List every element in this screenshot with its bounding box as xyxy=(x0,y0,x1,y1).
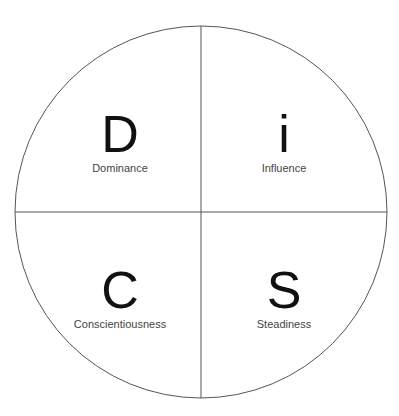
quadrant-dominance: D Dominance xyxy=(50,108,190,174)
quadrant-letter: i xyxy=(214,108,354,160)
quadrant-letter: C xyxy=(50,264,190,316)
quadrant-steadiness: S Steadiness xyxy=(214,264,354,330)
quadrant-label: Conscientiousness xyxy=(50,318,190,330)
quadrant-label: Dominance xyxy=(50,162,190,174)
quadrant-conscientiousness: C Conscientiousness xyxy=(50,264,190,330)
disc-circle-diagram xyxy=(0,0,399,416)
quadrant-letter: D xyxy=(50,108,190,160)
quadrant-letter: S xyxy=(214,264,354,316)
quadrant-influence: i Influence xyxy=(214,108,354,174)
quadrant-label: Steadiness xyxy=(214,318,354,330)
quadrant-label: Influence xyxy=(214,162,354,174)
